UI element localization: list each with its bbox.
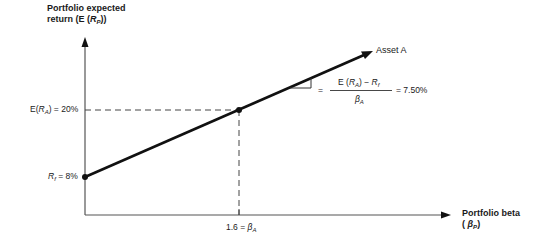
y-axis-title-end: )) [101, 14, 107, 24]
er-suffix: ) = 20% [49, 104, 79, 114]
x-axis-title: Portfolio beta ( βP) [462, 208, 520, 233]
diagram-canvas [0, 0, 540, 242]
slope-equals: = [318, 85, 323, 95]
er-prefix: E( [30, 104, 39, 114]
num-sub2: f [378, 82, 380, 88]
y-axis-title: Portfolio expected return (E (RP)) [47, 3, 126, 28]
risk-free-point [82, 174, 88, 180]
x-axis-title-close: ) [477, 219, 480, 229]
num-mid: ) − [359, 77, 372, 87]
y-axis-title-line2: return (E (RP)) [47, 14, 126, 28]
slope-denominator: βA [355, 94, 364, 105]
num-prefix: E ( [338, 77, 349, 87]
rf-suffix: = 8% [56, 171, 78, 181]
beta-tick-label: 1.6 = βA [226, 222, 256, 233]
asset-a-line [85, 55, 364, 177]
asset-a-point [236, 107, 242, 113]
beta-prefix: 1.6 = [226, 222, 248, 232]
risk-free-label: Rf = 8% [48, 171, 78, 182]
slope-result: = 7.50% [396, 85, 427, 95]
x-axis-title-line1: Portfolio beta [462, 208, 520, 219]
expected-return-label: E(RA) = 20% [30, 104, 78, 115]
x-axis-title-line2: ( βP) [462, 219, 520, 233]
x-axis-arrow-icon [441, 212, 451, 219]
y-axis-title-text: return (E ( [47, 14, 90, 24]
asset-a-label: Asset A [376, 45, 407, 55]
slope-numerator: E (RA) − Rf [338, 77, 379, 88]
y-axis-title-line1: Portfolio expected [47, 3, 126, 14]
x-axis-title-open: ( [462, 219, 465, 229]
den-sub: A [360, 99, 364, 105]
beta-sub: A [252, 227, 256, 233]
y-axis-arrow-icon [82, 37, 89, 47]
